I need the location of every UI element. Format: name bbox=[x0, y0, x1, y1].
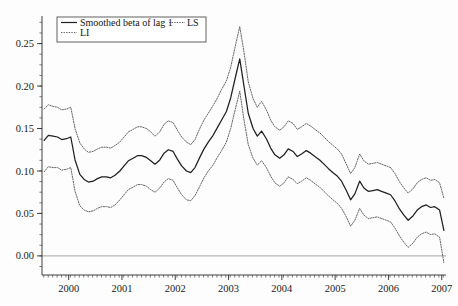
y-tick-label: 0.00 bbox=[16, 250, 34, 261]
x-tick-label: 2005 bbox=[325, 283, 346, 294]
series-line-upper-bound bbox=[44, 27, 444, 199]
y-tick-label: 0.20 bbox=[16, 81, 34, 92]
x-tick-label: 2003 bbox=[218, 283, 239, 294]
x-tick-label: 2006 bbox=[378, 283, 399, 294]
series-paths bbox=[44, 27, 444, 263]
chart-container: 0.000.050.100.150.200.25 200020012002200… bbox=[0, 0, 458, 306]
series-line-center bbox=[44, 59, 444, 231]
axis-lines bbox=[42, 16, 446, 275]
x-axis-tick-labels: 20002001200220032004200520062007 bbox=[58, 283, 452, 294]
legend-label-upper: LS bbox=[187, 17, 199, 28]
x-tick-label: 2002 bbox=[165, 283, 186, 294]
legend-label-center: Smoothed beta of lag 1 bbox=[80, 17, 173, 28]
x-tick-label: 2004 bbox=[271, 283, 293, 294]
legend-label-lower: LI bbox=[80, 27, 89, 38]
y-tick-label: 0.10 bbox=[16, 166, 34, 177]
y-axis-tick-labels: 0.000.050.100.150.200.25 bbox=[16, 38, 34, 261]
x-tick-label: 2001 bbox=[111, 283, 132, 294]
y-tick-label: 0.15 bbox=[16, 123, 34, 134]
chart-legend: Smoothed beta of lag 1 LS LI bbox=[57, 17, 206, 43]
x-tick-label: 2000 bbox=[58, 283, 79, 294]
x-tick-label: 2007 bbox=[431, 283, 452, 294]
time-series-chart: 0.000.050.100.150.200.25 200020012002200… bbox=[0, 0, 458, 306]
y-tick-label: 0.05 bbox=[16, 208, 34, 219]
y-tick-label: 0.25 bbox=[16, 38, 34, 49]
